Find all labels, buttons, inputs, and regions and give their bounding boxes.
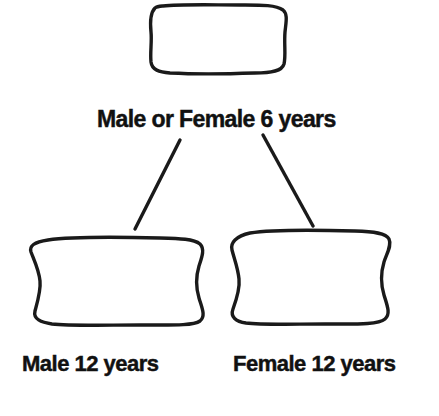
label-six-years: Male or Female 6 years [97,108,336,131]
connector-to-female [263,135,313,226]
connector-to-male [135,140,180,229]
vertebral-body-outline-6-years [151,5,287,74]
vertebral-body-outline-female-12-years [232,230,390,324]
vertebral-body-outline-male-12-years [31,237,204,325]
label-male-twelve-years: Male 12 years [22,353,159,375]
diagram-root: Male or Female 6 years Male 12 years Fem… [0,0,439,416]
label-female-twelve-years: Female 12 years [233,353,396,375]
